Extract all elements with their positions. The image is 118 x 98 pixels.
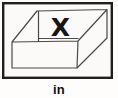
x-mark: X <box>51 13 70 42</box>
card-label: in <box>0 83 118 97</box>
preposition-card: X in <box>0 0 118 98</box>
